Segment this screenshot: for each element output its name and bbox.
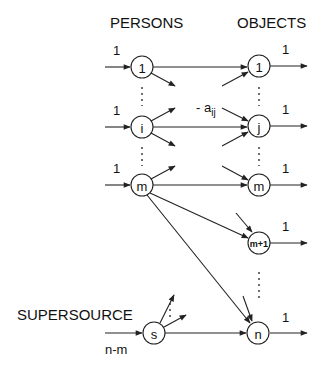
- object-node-m: m: [248, 174, 270, 196]
- supply-label-pi: 1: [113, 103, 120, 118]
- persons-header: PERSONS: [110, 14, 183, 31]
- arc-stub-s-up: [160, 295, 174, 323]
- demand-label-om1: 1: [282, 219, 289, 234]
- demand-label-on: 1: [282, 310, 289, 325]
- person-supply-arrows: [105, 67, 142, 333]
- svg-text:1: 1: [255, 60, 262, 75]
- arc-stub-oj-in-bottom: [222, 132, 248, 146]
- assignment-network-diagram: PERSONS OBJECTS SUPERSOURCE 1 1 1 n-m 1 …: [0, 0, 325, 365]
- arc-stub-pi-up: [151, 108, 175, 121]
- object-node-j: j: [248, 115, 270, 137]
- supersource-header: SUPERSOURCE: [17, 306, 133, 323]
- arc-stub-p1-out: [151, 73, 175, 86]
- demand-label-oj: 1: [282, 102, 289, 117]
- arc-cost-label: - aij: [196, 100, 216, 118]
- supersource-node: s: [143, 322, 165, 344]
- arc-stub-om1-in: [236, 213, 252, 232]
- arc-stub-o1-in: [222, 72, 248, 86]
- arc-stub-pi-down: [151, 133, 175, 146]
- arc-pm-om1: [150, 193, 248, 238]
- svg-text:i: i: [141, 121, 144, 136]
- object-node-m-plus-1: m+1: [248, 232, 270, 254]
- svg-text:1: 1: [138, 61, 145, 76]
- arc-stub-oj-in-top: [222, 108, 248, 121]
- supply-label-s: n-m: [105, 342, 127, 357]
- svg-text:s: s: [151, 327, 158, 342]
- person-node-i: i: [131, 116, 153, 138]
- arc-pm-on: [147, 195, 250, 323]
- arc-stub-pm-up: [151, 166, 175, 179]
- arc-stub-s-right: [164, 315, 186, 327]
- svg-text:n: n: [254, 327, 261, 342]
- person-node-1: 1: [131, 56, 153, 78]
- object-node-n: n: [247, 322, 269, 344]
- person-node-m: m: [131, 174, 153, 196]
- demand-label-om: 1: [282, 161, 289, 176]
- svg-text:m: m: [137, 179, 148, 194]
- objects-header: OBJECTS: [237, 14, 306, 31]
- object-node-1: 1: [248, 55, 270, 77]
- demand-label-o1: 1: [282, 42, 289, 57]
- supply-label-pm: 1: [113, 161, 120, 176]
- svg-text:m: m: [254, 179, 265, 194]
- svg-text:j: j: [257, 120, 261, 135]
- supply-label-p1: 1: [113, 43, 120, 58]
- svg-text:m+1: m+1: [250, 239, 268, 249]
- arc-stub-om-in: [222, 166, 248, 180]
- arc-stub-on-in: [243, 296, 252, 321]
